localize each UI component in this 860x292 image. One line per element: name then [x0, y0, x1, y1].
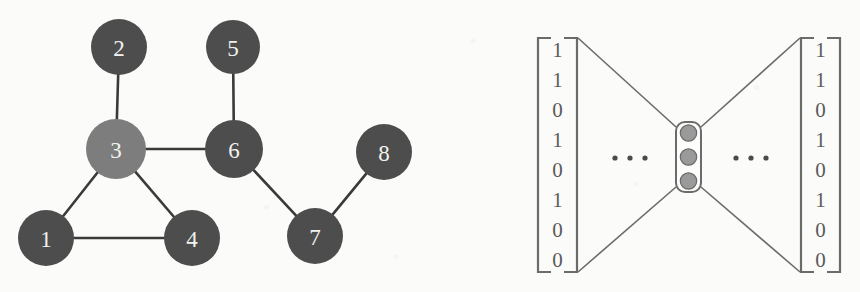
input-vector-digit-6: 0	[552, 218, 563, 242]
input-vector-digit-1: 1	[552, 68, 563, 92]
graph-node-8[interactable]: 8	[356, 124, 412, 180]
connection-encoder-bottom	[578, 187, 676, 272]
right-ellipsis	[733, 155, 768, 160]
output-vector-digit-7: 0	[815, 248, 826, 272]
input-vector-digit-5: 1	[552, 188, 563, 212]
input-vector-digits: 11010100	[552, 38, 563, 272]
figure-root: 12345678 11010100 11010100	[0, 0, 860, 292]
graph-node-label-5: 5	[227, 36, 239, 61]
graph-node-label-3: 3	[110, 138, 122, 163]
graph-edge-3-4	[134, 170, 175, 218]
bottleneck-unit-0	[680, 125, 696, 141]
graph-node-label-8: 8	[378, 141, 390, 166]
graph-node-label-7: 7	[309, 225, 321, 250]
output-vector-digit-1: 1	[815, 68, 826, 92]
output-vector-digit-4: 0	[815, 158, 826, 182]
bottleneck-unit-2	[680, 173, 696, 189]
input-vector-digit-4: 0	[552, 158, 563, 182]
input-vector-digit-0: 1	[552, 38, 563, 62]
output-vector-digits: 11010100	[815, 38, 826, 272]
output-vector-right-bracket	[827, 38, 840, 272]
output-vector-digit-6: 0	[815, 218, 826, 242]
graph-node-2[interactable]: 2	[91, 19, 147, 75]
left-ellipsis	[612, 155, 647, 160]
input-vector-digit-3: 1	[552, 128, 563, 152]
connection-encoder-top	[578, 38, 676, 127]
graph-node-group: 12345678	[18, 19, 412, 266]
input-vector-left-bracket	[538, 38, 551, 272]
bottleneck-unit-1	[680, 149, 696, 165]
graph-edge-2-3	[117, 73, 118, 121]
graph-node-4[interactable]: 4	[164, 210, 220, 266]
output-vector-left-bracket	[801, 38, 814, 272]
graph-panel: 12345678	[0, 0, 430, 292]
graph-node-label-4: 4	[186, 227, 198, 252]
right-ellipsis-dot-0	[733, 155, 738, 160]
graph-diagram: 12345678	[0, 0, 430, 292]
graph-node-label-2: 2	[113, 36, 125, 61]
graph-edge-6-7	[252, 169, 297, 217]
autoencoder-panel: 11010100 11010100	[430, 0, 860, 292]
output-vector-digit-3: 1	[815, 128, 826, 152]
graph-node-1[interactable]: 1	[18, 210, 74, 266]
graph-node-label-1: 1	[40, 227, 52, 252]
graph-node-label-6: 6	[228, 138, 240, 163]
bottleneck-layer	[676, 122, 701, 192]
connection-decoder-bottom	[701, 187, 800, 272]
graph-node-6[interactable]: 6	[205, 120, 263, 178]
graph-node-5[interactable]: 5	[206, 20, 260, 74]
autoencoder-diagram: 11010100 11010100	[430, 0, 860, 292]
input-vector-digit-7: 0	[552, 248, 563, 272]
graph-edge-7-8	[332, 172, 368, 216]
input-vector-digit-2: 0	[552, 98, 563, 122]
output-vector-digit-2: 0	[815, 98, 826, 122]
graph-node-7[interactable]: 7	[287, 208, 343, 264]
input-vector-right-bracket	[564, 38, 577, 272]
graph-node-3[interactable]: 3	[86, 119, 146, 179]
right-ellipsis-dot-2	[763, 155, 768, 160]
output-vector-digit-0: 1	[815, 38, 826, 62]
output-vector-digit-5: 1	[815, 188, 826, 212]
left-ellipsis-dot-0	[612, 155, 617, 160]
right-ellipsis-dot-1	[748, 155, 753, 160]
connection-decoder-top	[701, 38, 800, 127]
left-ellipsis-dot-1	[627, 155, 632, 160]
left-ellipsis-dot-2	[642, 155, 647, 160]
graph-edge-3-1	[62, 171, 99, 218]
